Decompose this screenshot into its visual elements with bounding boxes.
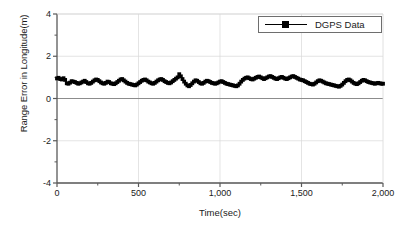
legend-marker-icon: [263, 17, 309, 32]
legend[interactable]: DGPS Data: [258, 16, 382, 33]
data-point: [63, 78, 67, 82]
chart-figure: Range Error in Longitude(m) Time(sec) 42…: [0, 0, 407, 229]
data-point: [381, 82, 385, 86]
plot-area: [0, 0, 407, 229]
legend-entry-label: DGPS Data: [315, 19, 365, 30]
